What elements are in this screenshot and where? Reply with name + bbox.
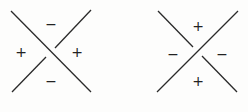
left-label-left: + [14,45,28,59]
right-label-left: − [166,47,180,61]
under-strand-upper [55,10,91,48]
right-label-top: + [191,19,205,33]
crossings-canvas [0,0,248,112]
left-label-top: − [44,17,58,31]
under-strand-lower [12,57,46,92]
right-label-right: − [215,47,229,61]
right-label-bottom: + [191,74,205,88]
under-strand-upper [158,11,193,47]
left-label-bottom: − [44,74,58,88]
left-label-right: + [70,45,84,59]
